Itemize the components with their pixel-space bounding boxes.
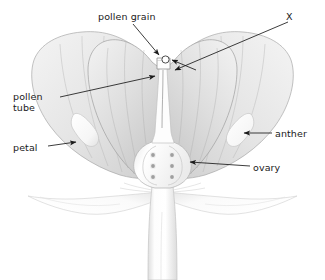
label-pollen-tube: pollen tube: [13, 91, 43, 113]
flower-diagram: pollen grain X pollen tube petal anther …: [0, 0, 325, 280]
label-x: X: [286, 11, 293, 22]
ovule: [150, 174, 156, 180]
sepal-left: [28, 192, 158, 214]
ovule: [150, 163, 156, 169]
ovary: [134, 140, 192, 188]
stem: [148, 186, 177, 280]
ovule: [169, 163, 175, 169]
flower-illustration: [0, 0, 325, 280]
ovule: [169, 152, 175, 158]
label-ovary: ovary: [253, 162, 280, 173]
label-anther: anther: [275, 128, 307, 139]
label-petal: petal: [13, 142, 38, 153]
label-pollen-tube-line2: tube: [13, 102, 43, 113]
ovule: [169, 174, 175, 180]
sepal-right: [167, 192, 297, 214]
label-pollen-tube-line1: pollen: [13, 91, 43, 102]
label-pollen-grain: pollen grain: [98, 11, 156, 22]
pollen-grain: [162, 56, 169, 63]
ovule: [150, 152, 156, 158]
